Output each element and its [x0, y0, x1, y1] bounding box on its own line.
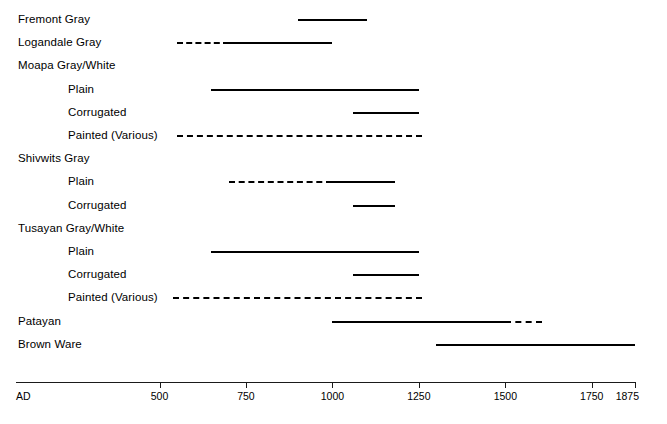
chart-row: Plain	[0, 78, 667, 100]
range-bar-solid	[436, 344, 635, 346]
axis-tick	[332, 382, 333, 388]
chart-row: Moapa Gray/White	[0, 54, 667, 76]
range-bar-solid	[211, 89, 418, 91]
axis-tick-label: 750	[237, 390, 255, 402]
axis-tick-label: 1500	[494, 390, 517, 402]
chart-row: Plain	[0, 240, 667, 262]
chart-row: Patayan	[0, 310, 667, 332]
row-label: Painted (Various)	[68, 286, 158, 308]
axis-tick-label: 1250	[407, 390, 430, 402]
range-bar-dashed	[229, 181, 333, 183]
chart-row: Logandale Gray	[0, 31, 667, 53]
axis-tick-label: 1000	[321, 390, 344, 402]
range-bar-solid	[229, 42, 333, 44]
axis-tick	[419, 382, 420, 388]
row-label: Corrugated	[68, 263, 127, 285]
range-bar-dashed	[177, 135, 423, 137]
range-bar-dashed	[173, 297, 422, 299]
axis-line	[16, 382, 635, 383]
axis-tick-label: 1750	[580, 390, 603, 402]
row-label: Plain	[68, 170, 94, 192]
range-bar-solid	[332, 321, 505, 323]
axis-tick	[160, 382, 161, 388]
range-bar-solid	[353, 112, 419, 114]
chart-row: Corrugated	[0, 101, 667, 123]
row-label: Brown Ware	[18, 333, 82, 355]
range-bar-solid	[353, 205, 394, 207]
range-bar-solid	[332, 181, 394, 183]
row-label: Fremont Gray	[18, 8, 90, 30]
row-label: Painted (Various)	[68, 124, 158, 146]
row-label: Plain	[68, 78, 94, 100]
range-bar-dashed	[505, 321, 541, 323]
chart-row: Brown Ware	[0, 333, 667, 355]
x-axis: 50075010001250150017501875 AD	[0, 377, 667, 417]
chart-row: Corrugated	[0, 263, 667, 285]
axis-tick	[246, 382, 247, 388]
chart-row: Painted (Various)	[0, 286, 667, 308]
chart-row: Tusayan Gray/White	[0, 217, 667, 239]
chart-row: Shivwits Gray	[0, 147, 667, 169]
chart-row: Corrugated	[0, 194, 667, 216]
row-label: Logandale Gray	[18, 31, 101, 53]
axis-tick	[505, 382, 506, 388]
axis-tick-label: 1875	[616, 390, 639, 402]
axis-tick	[592, 382, 593, 388]
row-label: Tusayan Gray/White	[18, 217, 124, 239]
ceramic-chronology-chart: Fremont GrayLogandale GrayMoapa Gray/Whi…	[0, 0, 667, 424]
axis-origin-label: AD	[16, 390, 31, 402]
range-bar-dashed	[177, 42, 229, 44]
range-bar-solid	[353, 274, 419, 276]
row-label: Corrugated	[68, 194, 127, 216]
row-label: Corrugated	[68, 101, 127, 123]
row-label: Plain	[68, 240, 94, 262]
row-label: Patayan	[18, 310, 61, 332]
axis-tick-label: 500	[151, 390, 169, 402]
row-label: Moapa Gray/White	[18, 54, 115, 76]
axis-tick	[635, 382, 636, 388]
row-label: Shivwits Gray	[18, 147, 90, 169]
range-bar-solid	[211, 251, 418, 253]
chart-row: Plain	[0, 170, 667, 192]
chart-row: Painted (Various)	[0, 124, 667, 146]
range-bar-solid	[298, 19, 367, 21]
chart-row: Fremont Gray	[0, 8, 667, 30]
